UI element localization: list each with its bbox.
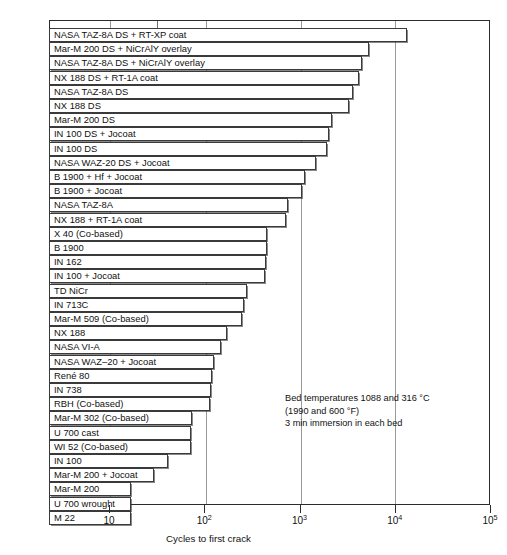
bar-label: M 22 [54, 513, 75, 523]
annotation-block: Bed temperatures 1088 and 316 °C (1990 a… [285, 392, 430, 430]
gridline-1e4 [395, 21, 396, 504]
header-tick-mark [157, 21, 158, 35]
chart-root: NASA TAZ-8A DS + RT-XP coatMar-M 200 DS … [0, 0, 507, 555]
x-tick-label: 105 [482, 515, 497, 527]
x-tick-label: 104 [387, 515, 402, 527]
x-axis-title: Cycles to first crack [0, 533, 507, 544]
bar-row: M 22 [49, 511, 131, 525]
gridline-1e2 [206, 21, 207, 504]
plot-frame [49, 20, 490, 505]
x-tick-label: 102 [197, 515, 212, 527]
x-tick-mark [490, 505, 491, 513]
x-tick-mark [204, 505, 205, 513]
annotation-line-3: 3 min immersion in each bed [285, 417, 430, 430]
x-tick-mark [300, 505, 301, 513]
x-tick-label: 103 [292, 515, 307, 527]
gridline-10 [110, 21, 111, 504]
gridline-1e3 [301, 21, 302, 504]
x-axis-title-text: Cycles to first crack [166, 533, 251, 544]
x-tick-mark [109, 505, 110, 513]
x-tick-mark [395, 505, 396, 513]
annotation-line-1: Bed temperatures 1088 and 316 °C [285, 392, 430, 405]
annotation-line-2: (1990 and 600 °F) [285, 405, 430, 418]
x-tick-label: 10 [103, 515, 114, 527]
